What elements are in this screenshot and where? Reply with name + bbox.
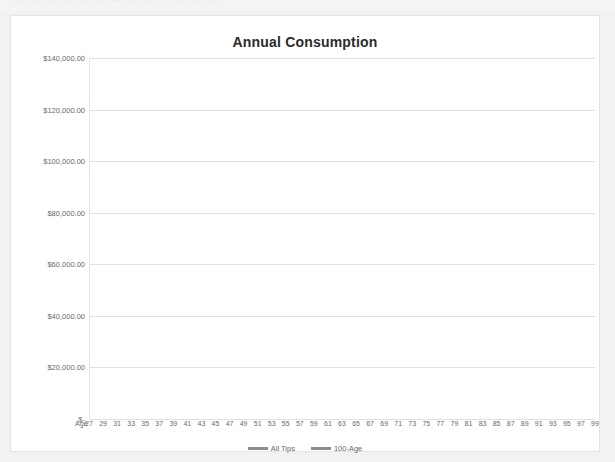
gridline [89,316,595,317]
x-tick-label: 37 [155,420,163,427]
x-tick-label: 31 [113,420,121,427]
y-tick-label: $120,000.00 [13,105,85,114]
x-tick-label: 35 [141,420,149,427]
x-tick-label: 99 [591,420,599,427]
gridline [89,367,595,368]
x-tick-label: 79 [451,420,459,427]
gridline [89,264,595,265]
chart-legend: All Tips100-Age [11,444,599,453]
x-tick-label: 27 [85,420,93,427]
y-axis-line [89,58,90,419]
x-tick-label: 95 [563,420,571,427]
y-tick-label: $20,000.00 [13,363,85,372]
x-tick-label: 39 [169,420,177,427]
legend-item[interactable]: All Tips [248,444,295,453]
x-axis-tick-labels: Age 272931333537394143454749515355575961… [89,420,595,434]
gridline [89,58,595,59]
clipped-top-text: · ··· ·· ···· ·· ··· ···· ·· ···· ··· ··… [8,0,223,5]
x-tick-label: 93 [549,420,557,427]
x-tick-label: 83 [479,420,487,427]
x-tick-label: 63 [338,420,346,427]
x-tick-label: 81 [465,420,473,427]
x-tick-label: 61 [324,420,332,427]
plot-background [89,58,595,419]
legend-label: 100-Age [334,444,362,453]
x-tick-label: 85 [493,420,501,427]
gridline [89,110,595,111]
plot-area [89,58,595,419]
x-tick-label: 69 [380,420,388,427]
x-tick-label: 49 [240,420,248,427]
chart-frame: Annual Consumption $140,000.00$120,000.0… [10,15,600,452]
legend-swatch [311,447,331,450]
x-tick-label: 59 [310,420,318,427]
x-tick-label: 33 [127,420,135,427]
x-tick-label: 55 [282,420,290,427]
y-tick-label: $140,000.00 [13,54,85,63]
x-tick-label: 71 [394,420,402,427]
x-tick-label: 53 [268,420,276,427]
x-tick-label: 45 [212,420,220,427]
x-tick-label: 51 [254,420,262,427]
legend-item[interactable]: 100-Age [311,444,362,453]
x-tick-label: 89 [521,420,529,427]
x-tick-label: 41 [183,420,191,427]
x-tick-label: 65 [352,420,360,427]
y-tick-label: $40,000.00 [13,311,85,320]
y-tick-label: $80,000.00 [13,208,85,217]
y-tick-label: $100,000.00 [13,157,85,166]
x-tick-label: 57 [296,420,304,427]
x-tick-label: 29 [99,420,107,427]
x-tick-label: 73 [408,420,416,427]
gridline [89,161,595,162]
legend-label: All Tips [271,444,295,453]
x-tick-label: 77 [436,420,444,427]
x-tick-label: 75 [422,420,430,427]
clipped-top-text-strip: · ··· ·· ···· ·· ··· ···· ·· ···· ··· ··… [0,0,615,13]
x-tick-label: 87 [507,420,515,427]
legend-swatch [248,447,268,450]
x-tick-label: 91 [535,420,543,427]
x-tick-label: 97 [577,420,585,427]
y-tick-label: $60,000.00 [13,260,85,269]
x-tick-label: 67 [366,420,374,427]
x-tick-label: 43 [198,420,206,427]
gridline [89,213,595,214]
chart-title: Annual Consumption [11,34,599,50]
y-axis-tick-labels: $140,000.00$120,000.00$100,000.00$80,000… [11,58,85,419]
x-tick-label: 47 [226,420,234,427]
